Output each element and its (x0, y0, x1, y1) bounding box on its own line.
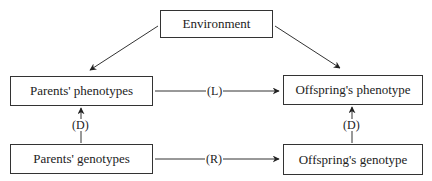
edge-label-dev-parents: (D) (71, 119, 90, 131)
arrow-env-to-offspring-phenotype (275, 26, 340, 68)
node-environment: Environment (160, 10, 273, 38)
edge-label-reproduction: (R) (205, 153, 223, 165)
node-offspring-genotype: Offspring's genotype (283, 144, 423, 175)
node-parents-genotypes: Parents' genotypes (10, 144, 153, 174)
diagram-canvas: Environment Parents' phenotypes Parents'… (0, 0, 432, 181)
edge-label-learning: (L) (206, 85, 223, 97)
node-parents-phenotypes: Parents' phenotypes (10, 76, 153, 106)
node-offspring-phenotype: Offspring's phenotype (283, 75, 423, 105)
edge-label-dev-offspring: (D) (342, 119, 361, 131)
arrow-env-to-parents-phenotypes (90, 26, 158, 70)
